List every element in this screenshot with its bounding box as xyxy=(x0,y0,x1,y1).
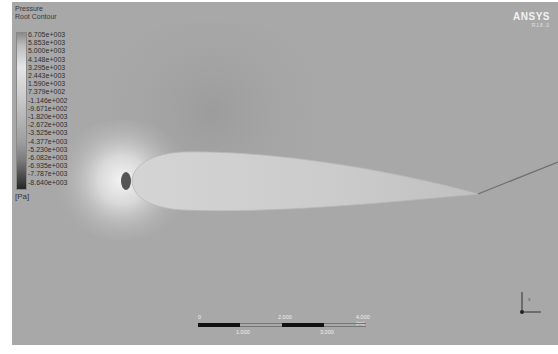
legend-value: 6.705e+003 xyxy=(28,31,68,39)
legend-value: -1.820e+003 xyxy=(28,113,68,121)
legend-value: -4.377e+003 xyxy=(28,138,68,146)
legend-title: Pressure Root Contour xyxy=(15,5,57,21)
svg-text:x: x xyxy=(528,296,531,302)
scale-label: 2.000 xyxy=(278,314,292,320)
legend-value: -6.082e+003 xyxy=(28,154,68,162)
legend-unit: [Pa] xyxy=(15,192,29,201)
scale-label: 0 xyxy=(198,314,201,320)
scale-label: 3.000 xyxy=(320,329,334,335)
legend-value: 4.148e+003 xyxy=(28,56,68,64)
legend-value: -5.230e+003 xyxy=(28,146,68,154)
color-legend-bar xyxy=(16,32,27,190)
graphics-viewport[interactable]: Pressure Root Contour 6.705e+003 5.853e+… xyxy=(12,2,558,345)
axis-triad-icon[interactable]: x xyxy=(517,288,547,318)
scale-segment xyxy=(282,323,324,327)
legend-value: -9.671e+002 xyxy=(28,105,68,113)
legend-value: 3.295e+003 xyxy=(28,64,68,72)
legend-title-variable: Pressure xyxy=(15,5,57,13)
legend-value: 5.000e+003 xyxy=(28,47,68,55)
scale-label: 1.000 xyxy=(236,329,250,335)
legend-title-type: Root Contour xyxy=(15,13,57,21)
legend-value: -7.787e+003 xyxy=(28,170,68,178)
legend-value: 1.590e+003 xyxy=(28,80,68,88)
brand-version: R18.0 xyxy=(513,22,550,28)
legend-value: 5.853e+003 xyxy=(28,39,68,47)
legend-value: 7.379e+002 xyxy=(28,88,68,96)
ansys-logo: ANSYS R18.0 xyxy=(513,11,550,28)
legend-value: 2.443e+003 xyxy=(28,72,68,80)
legend-value: -8.640e+003 xyxy=(28,179,68,187)
legend-value: -3.525e+003 xyxy=(28,129,68,137)
legend-value: -6.935e+003 xyxy=(28,162,68,170)
scale-segment xyxy=(240,323,282,327)
scale-bar: 0 2.000 4.000 (m) 1.000 3.000 xyxy=(198,314,368,344)
legend-value: -1.146e+002 xyxy=(28,97,68,105)
scale-segment xyxy=(324,323,366,327)
legend-value: -2.672e+003 xyxy=(28,121,68,129)
pressure-contour-field xyxy=(12,2,558,345)
brand-name: ANSYS xyxy=(513,11,550,22)
legend-labels: 6.705e+003 5.853e+003 5.000e+003 4.148e+… xyxy=(28,31,68,187)
scale-segment xyxy=(198,323,240,327)
